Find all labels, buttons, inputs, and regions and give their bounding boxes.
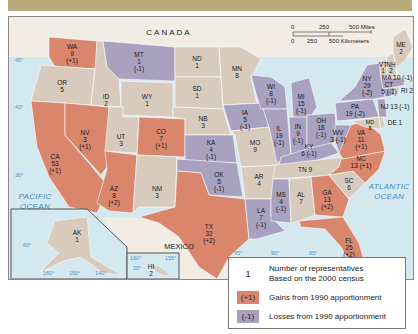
svg-text:11: 11: [358, 136, 365, 143]
lat-45: 45°: [15, 57, 23, 63]
svg-text:1: 1: [381, 67, 385, 74]
svg-text:CT: CT: [385, 81, 394, 88]
hawaii-inset: HI 2 160° 155° 20°: [127, 253, 179, 279]
lat-40: 40°: [15, 104, 23, 110]
svg-text:AR: AR: [254, 173, 263, 180]
svg-text:(+1): (+1): [66, 57, 78, 65]
svg-text:(-1): (-1): [206, 153, 216, 161]
svg-text:3 (-1): 3 (-1): [330, 136, 346, 144]
svg-text:GA: GA: [322, 189, 332, 196]
svg-text:NJ 13 (-1): NJ 13 (-1): [381, 103, 410, 111]
svg-text:WV: WV: [333, 129, 344, 136]
svg-text:(-1): (-1): [214, 185, 224, 193]
svg-text:2: 2: [399, 48, 403, 55]
svg-text:(+1): (+1): [49, 167, 61, 175]
svg-text:(-1): (-1): [134, 65, 144, 73]
svg-text:4: 4: [279, 198, 283, 205]
us-map: 45° 40° 30° 95° 90° 85° CANADA MEXICO PA…: [8, 16, 414, 280]
svg-text:9: 9: [70, 50, 74, 57]
svg-text:SC: SC: [344, 177, 353, 184]
svg-text:KY: KY: [305, 143, 314, 150]
loss-swatch: (-1): [237, 310, 259, 323]
svg-text:VA: VA: [357, 129, 366, 136]
svg-text:(+1): (+1): [79, 143, 91, 151]
svg-text:6: 6: [347, 184, 351, 191]
svg-text:(-2): (-2): [362, 89, 372, 97]
svg-text:53: 53: [51, 160, 59, 167]
svg-text:(-1): (-1): [293, 137, 303, 145]
svg-text:TX: TX: [205, 223, 214, 230]
svg-text:6 (-1): 6 (-1): [301, 150, 317, 158]
svg-text:250: 250: [307, 38, 318, 44]
svg-text:(-1): (-1): [240, 123, 250, 131]
svg-text:150°: 150°: [69, 270, 80, 276]
svg-text:DE 1: DE 1: [388, 119, 403, 126]
svg-text:19 (-2): 19 (-2): [345, 110, 364, 118]
svg-text:3: 3: [155, 192, 159, 199]
svg-text:AZ: AZ: [110, 185, 118, 192]
svg-text:ME: ME: [396, 41, 406, 48]
svg-text:1: 1: [195, 62, 199, 69]
svg-text:UT: UT: [117, 133, 126, 140]
svg-text:500 Miles: 500 Miles: [349, 24, 375, 30]
svg-text:7: 7: [159, 135, 163, 142]
legend-row-loss: (-1) Losses from 1990 apportionment: [229, 310, 386, 323]
lat-30: 30°: [15, 172, 23, 178]
svg-text:4: 4: [257, 180, 261, 187]
svg-text:RI 2: RI 2: [401, 87, 413, 94]
svg-text:1: 1: [137, 58, 141, 65]
svg-text:ND: ND: [192, 55, 202, 62]
svg-text:IL: IL: [276, 125, 282, 132]
svg-text:3: 3: [83, 136, 87, 143]
svg-text:18: 18: [317, 124, 325, 131]
svg-text:MA 10 (-1): MA 10 (-1): [382, 74, 412, 82]
svg-text:(+2): (+2): [321, 203, 333, 211]
header-band: [8, 0, 412, 11]
svg-text:5: 5: [217, 178, 221, 185]
svg-text:WA: WA: [67, 43, 78, 50]
svg-text:(+2): (+2): [108, 199, 120, 207]
svg-text:OH: OH: [316, 117, 326, 124]
svg-text:OK: OK: [214, 171, 224, 178]
svg-text:NM: NM: [152, 185, 162, 192]
svg-text:HI: HI: [148, 263, 155, 270]
svg-text:8: 8: [112, 192, 116, 199]
svg-text:(+1): (+1): [355, 143, 367, 151]
state-sd[interactable]: [175, 77, 223, 109]
canada-label: CANADA: [146, 28, 191, 37]
svg-text:SD: SD: [192, 85, 201, 92]
svg-text:160°: 160°: [43, 270, 54, 276]
svg-text:MO: MO: [250, 139, 260, 146]
svg-text:8: 8: [269, 90, 273, 97]
svg-text:MN: MN: [232, 65, 242, 72]
svg-text:3: 3: [119, 140, 123, 147]
svg-text:PA: PA: [351, 103, 360, 110]
legend-number-desc-2: Based on the 2000 census: [269, 274, 364, 284]
svg-text:9: 9: [253, 146, 257, 153]
svg-text:25: 25: [345, 244, 353, 251]
svg-text:15: 15: [297, 100, 305, 107]
svg-text:IA: IA: [242, 109, 249, 116]
svg-text:7: 7: [299, 198, 303, 205]
svg-text:(+1): (+1): [155, 142, 167, 150]
svg-text:160°: 160°: [130, 255, 141, 261]
svg-text:IN: IN: [295, 123, 302, 130]
lon-85: 85°: [309, 250, 317, 256]
svg-text:29: 29: [363, 82, 371, 89]
legend-number-key: 1: [237, 269, 259, 279]
atlantic-label-1: ATLANTIC: [368, 182, 409, 191]
pacific-label-1: PACIFIC: [18, 192, 51, 201]
svg-text:155°: 155°: [165, 255, 176, 261]
legend-number-desc-1: Number of representatives: [269, 264, 364, 274]
svg-text:NB: NB: [198, 115, 207, 122]
svg-text:8: 8: [368, 125, 371, 131]
svg-text:FL: FL: [345, 237, 353, 244]
svg-text:3: 3: [201, 122, 205, 129]
lon-95: 95°: [234, 250, 242, 256]
svg-text:(-1): (-1): [266, 97, 276, 105]
svg-text:140°: 140°: [95, 270, 106, 276]
svg-text:(+2): (+2): [203, 237, 215, 245]
svg-text:2: 2: [104, 100, 108, 107]
svg-text:(-1): (-1): [274, 139, 284, 147]
state-nm[interactable]: [133, 155, 177, 213]
